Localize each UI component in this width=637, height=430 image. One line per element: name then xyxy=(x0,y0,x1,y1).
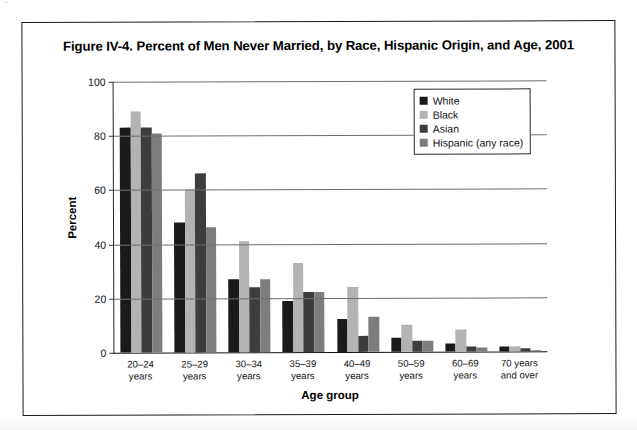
bar[interactable] xyxy=(293,263,304,352)
scan-top-text-fragment: ... xyxy=(4,0,9,4)
y-axis-tick-label: 100 xyxy=(88,76,106,88)
bar[interactable] xyxy=(368,317,379,352)
x-axis-tick-label: 35–39years xyxy=(276,358,330,382)
legend-swatch-icon xyxy=(420,97,428,105)
bar[interactable] xyxy=(466,346,477,351)
legend-swatch-icon xyxy=(420,111,428,119)
legend-item[interactable]: Black xyxy=(420,107,523,121)
x-axis-tick-label: 60–69years xyxy=(438,357,492,381)
bar[interactable] xyxy=(358,336,369,352)
legend-item[interactable]: Hispanic (any race) xyxy=(420,135,523,149)
x-axis-tick-label: 40–49years xyxy=(330,358,384,382)
legend-label: Asian xyxy=(433,123,459,135)
y-axis-tick-label: 0 xyxy=(101,347,107,359)
y-axis-tick-label: 60 xyxy=(94,184,106,196)
bar-group xyxy=(222,81,277,352)
bar[interactable] xyxy=(239,241,250,352)
bar[interactable] xyxy=(120,128,131,353)
bar-group xyxy=(276,81,331,352)
bar[interactable] xyxy=(531,350,542,351)
bar[interactable] xyxy=(445,343,456,351)
bar[interactable] xyxy=(206,228,217,353)
bar[interactable] xyxy=(402,325,413,352)
bar[interactable] xyxy=(195,173,206,352)
x-axis-tick-label: 70 yearsand over xyxy=(492,357,546,381)
bar[interactable] xyxy=(304,292,315,352)
figure-frame: Figure IV-4. Percent of Men Never Marrie… xyxy=(21,20,616,416)
legend-swatch-icon xyxy=(420,125,428,133)
bar[interactable] xyxy=(477,347,488,351)
bar[interactable] xyxy=(423,341,434,352)
x-axis-tick-label: 25–29years xyxy=(168,358,222,382)
x-axis-tick-label: 30–34years xyxy=(222,358,276,382)
bar-group xyxy=(114,81,169,352)
y-axis-tick-mark xyxy=(109,82,114,83)
bar[interactable] xyxy=(260,279,271,352)
y-axis-title: Percent xyxy=(51,82,94,353)
bar[interactable] xyxy=(520,349,531,352)
x-axis-tick-label: 50–59years xyxy=(384,358,438,382)
y-axis-tick-mark xyxy=(109,244,114,245)
bar[interactable] xyxy=(250,287,261,352)
bar[interactable] xyxy=(314,292,325,352)
legend-item[interactable]: Asian xyxy=(420,121,523,135)
y-axis-tick-mark xyxy=(109,353,114,354)
y-axis-title-text: Percent xyxy=(66,196,78,238)
bar[interactable] xyxy=(174,222,185,352)
legend-label: Hispanic (any race) xyxy=(433,136,523,148)
bar[interactable] xyxy=(456,330,467,352)
bar[interactable] xyxy=(283,301,294,353)
bar[interactable] xyxy=(347,287,358,352)
bar[interactable] xyxy=(510,346,521,351)
scan-shadow xyxy=(0,416,637,430)
y-axis-tick-mark xyxy=(109,136,114,137)
y-axis-tick-label: 20 xyxy=(95,292,107,304)
legend-label: White xyxy=(433,95,460,107)
x-axis-tick-labels: 20–24years25–29years30–34years35–39years… xyxy=(113,357,546,382)
bar[interactable] xyxy=(391,338,402,352)
bar[interactable] xyxy=(412,341,423,352)
y-axis-tick-mark xyxy=(109,190,114,191)
legend-label: Black xyxy=(433,109,459,121)
bar[interactable] xyxy=(130,111,141,352)
bar[interactable] xyxy=(185,190,196,353)
bar-group xyxy=(168,81,223,352)
y-axis-tick-label: 80 xyxy=(94,130,106,142)
plot-wrapper: Percent 020406080100 20–24years25–29year… xyxy=(22,21,615,415)
x-axis-title: Age group xyxy=(114,388,547,401)
bar[interactable] xyxy=(499,346,510,351)
x-axis-tick-label: 20–24years xyxy=(113,358,167,382)
bar[interactable] xyxy=(337,319,348,352)
y-axis-tick-mark xyxy=(109,298,114,299)
bar[interactable] xyxy=(229,279,240,352)
legend-swatch-icon xyxy=(420,139,428,147)
chart-legend: WhiteBlackAsianHispanic (any race) xyxy=(414,88,532,154)
bar[interactable] xyxy=(141,128,152,353)
bar[interactable] xyxy=(151,133,162,353)
bar-group xyxy=(330,81,385,352)
y-axis-tick-label: 40 xyxy=(94,238,106,250)
legend-item[interactable]: White xyxy=(420,93,523,107)
